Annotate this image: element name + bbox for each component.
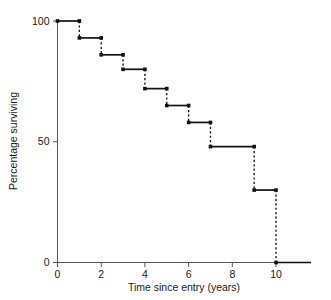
x-tick-label: 4 xyxy=(142,268,148,280)
x-tick-label: 6 xyxy=(186,268,192,280)
survival-event-markers xyxy=(56,19,278,264)
survival-curve-figure: 050100 0246810 Time since entry (years) … xyxy=(0,0,331,300)
event-marker xyxy=(252,145,256,149)
x-tick-label: 0 xyxy=(55,268,61,280)
x-tick-label: 8 xyxy=(229,268,235,280)
y-tick-label: 100 xyxy=(32,15,50,27)
event-marker xyxy=(121,53,125,57)
event-marker xyxy=(274,188,278,192)
y-tick-label: 50 xyxy=(38,135,50,147)
survival-step-lines xyxy=(58,21,312,263)
event-marker xyxy=(99,53,103,57)
event-marker xyxy=(143,87,147,91)
event-marker xyxy=(209,145,213,149)
event-marker xyxy=(143,68,147,72)
event-marker xyxy=(78,19,82,23)
axes-group xyxy=(57,20,311,263)
y-axis-ticks: 050100 xyxy=(32,15,58,269)
event-marker xyxy=(187,104,191,108)
event-marker xyxy=(187,121,191,125)
kaplan-meier-chart: 050100 0246810 Time since entry (years) … xyxy=(0,0,331,300)
y-tick-label: 0 xyxy=(44,256,50,268)
event-marker xyxy=(274,261,278,265)
event-marker xyxy=(209,121,213,125)
x-tick-label: 10 xyxy=(270,268,282,280)
y-axis-title: Percentage surviving xyxy=(7,92,19,190)
event-marker xyxy=(165,87,169,91)
event-marker xyxy=(252,188,256,192)
event-marker xyxy=(78,36,82,40)
event-marker xyxy=(165,104,169,108)
survival-drop-lines xyxy=(79,21,276,263)
event-marker xyxy=(121,68,125,72)
x-tick-label: 2 xyxy=(98,268,104,280)
x-axis-ticks: 0246810 xyxy=(55,263,282,281)
event-marker xyxy=(99,36,103,40)
event-marker xyxy=(56,19,60,23)
x-axis-title: Time since entry (years) xyxy=(128,281,240,293)
